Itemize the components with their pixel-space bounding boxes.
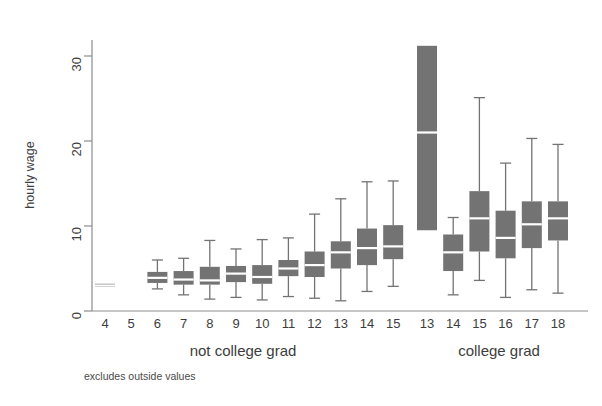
box-iqr: [496, 211, 516, 259]
box-plot-item: [174, 258, 194, 295]
group-label-not-college-grad: not college grad: [190, 342, 297, 359]
box-plot-item: [469, 98, 489, 281]
box-plot-item: [357, 182, 377, 292]
box-plot-item: [95, 284, 115, 287]
box-plot-item: [305, 214, 325, 298]
y-axis-title: hourly wage: [23, 141, 37, 208]
box-iqr: [383, 225, 403, 259]
box-iqr: [469, 191, 489, 251]
x-axis-tick-label: 5: [128, 316, 135, 331]
box-plot-item: [331, 199, 351, 301]
box-plot-item: [496, 163, 516, 297]
x-axis-tick-label: 8: [206, 316, 213, 331]
box-plot-item: [278, 238, 298, 297]
box-plot-item: [548, 144, 568, 293]
x-axis-tick-label: 15: [472, 316, 486, 331]
y-axis-tick-label: 30: [69, 57, 84, 71]
box-plot-item: [443, 218, 463, 295]
box-iqr: [174, 271, 194, 285]
group-label-college-grad: college grad: [458, 342, 540, 359]
box-plot-item: [200, 240, 220, 299]
box-plot-item: [226, 249, 246, 297]
x-axis-tick-label: 7: [180, 316, 187, 331]
chart-canvas: 0102030 456789101112131415131415161718 h…: [0, 0, 602, 406]
box-iqr: [548, 201, 568, 240]
box-plot-item: [417, 46, 437, 230]
x-axis-tick-label: 14: [446, 316, 460, 331]
box-iqr: [357, 229, 377, 266]
x-axis-tick-label: 18: [551, 316, 565, 331]
box-iqr: [417, 46, 437, 230]
y-axis-tick-label: 20: [69, 142, 84, 156]
y-axis-ticks: 0102030: [69, 56, 92, 319]
x-axis-tick-label: 13: [420, 316, 434, 331]
x-axis-tick-label: 11: [282, 316, 296, 331]
x-axis-tick-label: 9: [232, 316, 239, 331]
box-plot-item: [383, 181, 403, 286]
x-axis-tick-label: 10: [255, 316, 269, 331]
x-axis-tick-label: 12: [307, 316, 321, 331]
box-plot-series: [95, 46, 568, 301]
box-plot-item: [522, 138, 542, 289]
x-axis-tick-label: 4: [101, 316, 108, 331]
x-axis-tick-labels: 456789101112131415131415161718: [101, 316, 565, 331]
box-iqr: [200, 267, 220, 285]
x-axis-tick-label: 13: [334, 316, 348, 331]
box-plot-chart: 0102030 456789101112131415131415161718 h…: [0, 0, 602, 406]
box-plot-item: [252, 240, 272, 300]
box-iqr: [331, 241, 351, 268]
x-axis-tick-label: 6: [154, 316, 161, 331]
x-axis-tick-label: 16: [498, 316, 512, 331]
x-axis-tick-label: 15: [386, 316, 400, 331]
x-axis-tick-label: 14: [360, 316, 374, 331]
box-iqr: [252, 265, 272, 284]
y-axis-tick-label: 10: [69, 227, 84, 241]
y-axis-tick-label: 0: [69, 312, 84, 319]
chart-footnote: excludes outside values: [84, 370, 196, 382]
x-axis-tick-label: 17: [525, 316, 539, 331]
box-plot-item: [147, 260, 167, 289]
